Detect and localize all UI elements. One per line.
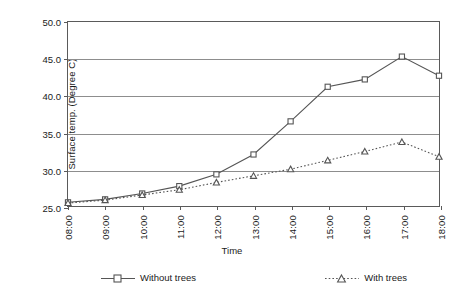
x-tick-mark bbox=[329, 206, 330, 210]
x-tick-mark bbox=[68, 206, 69, 210]
x-tick-mark bbox=[366, 206, 367, 210]
data-point-triangle-icon bbox=[362, 148, 368, 154]
legend-label-with-trees: With trees bbox=[364, 273, 407, 283]
data-point-square-icon bbox=[325, 84, 330, 89]
y-tick-label: 45.0 bbox=[43, 54, 62, 65]
line-chart: Surface temp. (Degree C) 50.045.040.035.… bbox=[0, 0, 464, 297]
y-tick-label: 50.0 bbox=[43, 17, 62, 28]
x-axis-title: Time bbox=[0, 245, 464, 256]
y-tick-label: 35.0 bbox=[43, 128, 62, 139]
x-tick-label: 12:00 bbox=[212, 215, 223, 240]
chart-legend: Without trees With trees bbox=[67, 268, 440, 288]
data-point-square-icon bbox=[362, 77, 367, 82]
x-tick-mark bbox=[255, 206, 256, 210]
y-tick-label: 40.0 bbox=[43, 91, 62, 102]
y-tick-label: 30.0 bbox=[43, 165, 62, 176]
x-tick-label: 08:00 bbox=[63, 215, 74, 240]
data-point-triangle-icon bbox=[436, 154, 442, 160]
data-point-square-icon bbox=[214, 172, 219, 177]
series-with-trees bbox=[65, 139, 442, 206]
x-tick-mark bbox=[217, 206, 218, 210]
x-tick-mark bbox=[105, 206, 106, 210]
x-tick-label: 15:00 bbox=[324, 215, 335, 240]
x-tick-mark bbox=[404, 206, 405, 210]
x-tick-label: 11:00 bbox=[174, 215, 185, 239]
data-point-triangle-icon bbox=[325, 157, 331, 163]
x-tick-label: 14:00 bbox=[286, 215, 297, 240]
x-tick-label: 18:00 bbox=[436, 215, 447, 240]
data-point-square-icon bbox=[399, 54, 404, 59]
x-tick-label: 10:00 bbox=[137, 215, 148, 240]
x-tick-mark bbox=[292, 206, 293, 210]
data-point-square-icon bbox=[251, 152, 256, 157]
y-tick-label: 25.0 bbox=[43, 203, 62, 214]
x-tick-label: 13:00 bbox=[249, 215, 260, 240]
legend-label-without-trees: Without trees bbox=[140, 273, 196, 283]
series-line bbox=[68, 57, 439, 203]
data-point-triangle-icon bbox=[250, 173, 256, 179]
plot-area: Surface temp. (Degree C) 50.045.040.035.… bbox=[67, 21, 440, 207]
x-tick-label: 09:00 bbox=[100, 215, 111, 240]
legend-item-without-trees: Without trees bbox=[101, 273, 196, 284]
data-point-square-icon bbox=[436, 73, 441, 78]
x-tick-label: 17:00 bbox=[398, 215, 409, 240]
data-point-square-icon bbox=[288, 119, 293, 124]
x-tick-mark bbox=[441, 206, 442, 210]
series-layer bbox=[68, 22, 439, 206]
legend-marker-square-icon bbox=[101, 273, 135, 284]
data-point-triangle-icon bbox=[288, 166, 294, 172]
x-tick-label: 16:00 bbox=[361, 215, 372, 240]
x-tick-mark bbox=[180, 206, 181, 210]
x-tick-mark bbox=[143, 206, 144, 210]
legend-marker-triangle-icon bbox=[325, 273, 359, 284]
legend-item-with-trees: With trees bbox=[325, 273, 407, 284]
data-point-triangle-icon bbox=[399, 139, 405, 145]
data-point-triangle-icon bbox=[213, 179, 219, 185]
series-without-trees bbox=[65, 54, 441, 205]
